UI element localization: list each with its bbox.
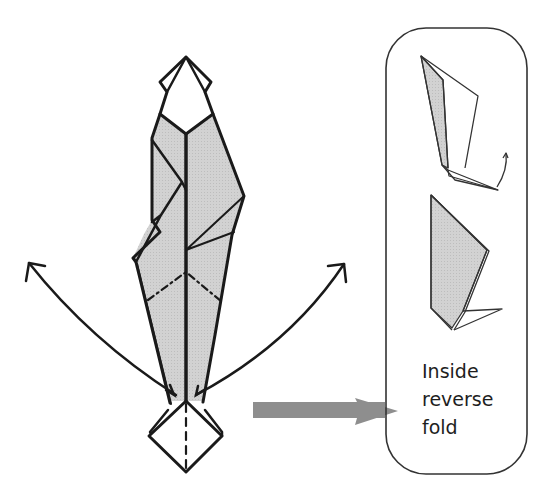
main-model — [133, 57, 244, 472]
detail-caption: Inside reverse fold — [422, 357, 493, 441]
caption-line-3: fold — [422, 413, 493, 441]
detail-step-1 — [421, 56, 508, 190]
pointer-arrow-shaft — [253, 402, 385, 418]
caption-line-1: Inside — [422, 357, 493, 385]
detail-step-2 — [431, 195, 502, 330]
detail-step-2-shade — [431, 195, 487, 328]
caption-line-2: reverse — [422, 385, 493, 413]
